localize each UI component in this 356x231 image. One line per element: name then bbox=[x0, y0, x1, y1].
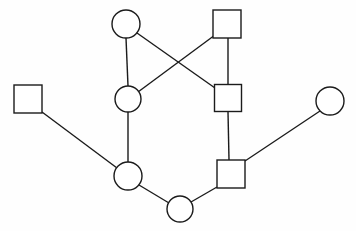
graph-edge-s1-c2 bbox=[138, 35, 215, 92]
graph-edge-c1-c2 bbox=[126, 38, 128, 86]
node-link-graph bbox=[0, 0, 356, 231]
graph-node-circle-c3[interactable] bbox=[316, 87, 344, 115]
node-layer bbox=[14, 10, 344, 222]
graph-node-square-s2[interactable] bbox=[215, 85, 242, 112]
graph-edge-c4-c5 bbox=[139, 185, 169, 203]
graph-edge-c3-s4 bbox=[245, 111, 320, 161]
graph-edge-c5-s4 bbox=[191, 187, 217, 202]
diagram-canvas bbox=[0, 0, 356, 231]
graph-edge-s3-c4 bbox=[42, 112, 117, 168]
graph-node-circle-c4[interactable] bbox=[114, 162, 142, 190]
graph-node-square-s1[interactable] bbox=[213, 10, 241, 38]
graph-node-circle-c1[interactable] bbox=[112, 10, 140, 38]
graph-edge-c1-s2 bbox=[137, 33, 215, 88]
graph-node-circle-c5[interactable] bbox=[167, 196, 193, 222]
graph-node-circle-c2[interactable] bbox=[115, 86, 141, 112]
graph-edge-s2-s4 bbox=[228, 112, 229, 160]
graph-node-square-s3[interactable] bbox=[14, 85, 42, 113]
edge-layer bbox=[42, 33, 320, 203]
graph-node-square-s4[interactable] bbox=[217, 160, 245, 188]
